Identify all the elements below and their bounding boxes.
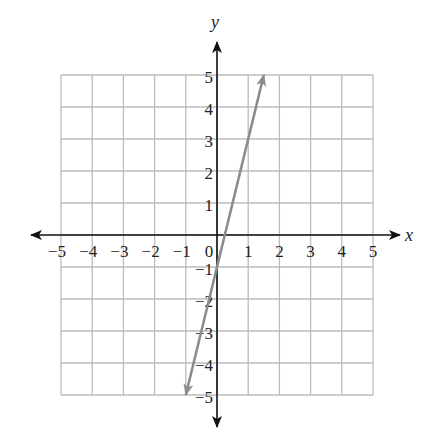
x-tick-label: −2 [142,242,160,261]
x-tick-label: 0 [205,242,214,261]
x-tick-label: −5 [48,242,66,261]
y-axis-label: y [209,12,219,32]
x-tick-label: −1 [173,242,191,261]
y-tick-label: −3 [195,324,213,343]
y-tick-label: 4 [205,100,214,119]
axes [31,42,400,427]
y-tick-label: 1 [205,196,214,215]
x-tick-label: −3 [110,242,128,261]
x-tick-label: 5 [369,242,378,261]
x-tick-label: 1 [244,242,253,261]
x-tick-label: −4 [79,242,98,261]
y-tick-label: 2 [205,164,214,183]
y-tick-label: 3 [205,132,214,151]
y-tick-label: −4 [195,356,214,375]
x-tick-label: 2 [275,242,284,261]
x-tick-label: 3 [306,242,315,261]
x-axis-label: x [404,225,413,245]
y-tick-label: −5 [195,388,213,407]
y-tick-label: −1 [195,260,213,279]
coordinate-plane: −5−4−3−2−101234554321−1−2−3−4−5 x y [0,0,430,446]
y-tick-label: 5 [205,68,214,87]
x-tick-label: 4 [338,242,347,261]
tick-labels: −5−4−3−2−101234554321−1−2−3−4−5 [48,68,377,407]
